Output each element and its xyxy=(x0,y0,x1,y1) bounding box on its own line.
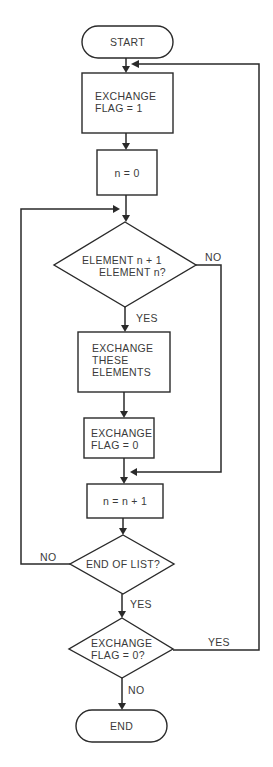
label-flag-check-yes: YES xyxy=(208,636,230,648)
node-swap-line-1: EXCHANGE xyxy=(92,342,153,354)
arrowhead-icon xyxy=(122,66,130,73)
node-compare: ELEMENT n + 1 ELEMENT n? xyxy=(54,222,196,307)
node-start-label: START xyxy=(110,36,145,48)
node-set-flag-0-line-2: FLAG = 0 xyxy=(91,439,139,451)
arrowhead-icon xyxy=(119,528,127,535)
label-end-of-list-yes: YES xyxy=(130,598,152,610)
node-end-label: END xyxy=(110,720,133,732)
node-compare-line-1: ELEMENT n + 1 xyxy=(82,254,162,266)
node-set-flag-1-line-1: EXCHANGE xyxy=(95,90,156,102)
node-set-flag-0-line-1: EXCHANGE xyxy=(91,427,152,439)
arrowhead-icon xyxy=(120,411,128,418)
arrowhead-icon xyxy=(118,611,126,618)
node-flag-check-line-2: FLAG = 0? xyxy=(91,649,145,661)
node-end-of-list: END OF LIST? xyxy=(70,535,174,594)
node-swap-line-3: ELEMENTS xyxy=(92,366,151,378)
label-compare-no: NO xyxy=(205,251,221,263)
arrowhead-icon xyxy=(121,325,129,332)
node-set-n-0-label: n = 0 xyxy=(114,167,139,179)
node-start: START xyxy=(82,26,173,58)
node-set-flag-1: EXCHANGE FLAG = 1 xyxy=(82,73,173,133)
label-flag-check-no: NO xyxy=(128,684,144,696)
node-swap: EXCHANGE THESE ELEMENTS xyxy=(78,332,170,392)
node-flag-check-line-1: EXCHANGE xyxy=(91,637,152,649)
flowchart: START EXCHANGE FLAG = 1 n = 0 ELEMENT n … xyxy=(0,0,273,767)
node-swap-line-2: THESE xyxy=(92,354,129,366)
arrowhead-icon xyxy=(122,215,130,222)
node-set-flag-0: EXCHANGE FLAG = 0 xyxy=(84,418,154,458)
arrowhead-icon xyxy=(120,477,128,484)
arrowhead-icon xyxy=(122,143,130,150)
node-set-flag-1-line-2: FLAG = 1 xyxy=(95,102,143,114)
arrowhead-icon xyxy=(118,703,126,710)
node-flag-check: EXCHANGE FLAG = 0? xyxy=(69,618,173,678)
arrowhead-icon xyxy=(131,60,139,68)
arrowhead-icon xyxy=(130,468,137,476)
node-increment-label: n = n + 1 xyxy=(103,495,147,507)
arrowhead-icon xyxy=(113,205,120,213)
label-compare-yes: YES xyxy=(136,312,158,324)
node-increment: n = n + 1 xyxy=(87,484,163,518)
node-compare-line-2: ELEMENT n? xyxy=(99,266,166,278)
node-set-n-0: n = 0 xyxy=(97,150,157,195)
label-end-of-list-no: NO xyxy=(40,551,56,563)
node-end-of-list-label: END OF LIST? xyxy=(86,558,160,570)
node-end: END xyxy=(76,710,167,742)
